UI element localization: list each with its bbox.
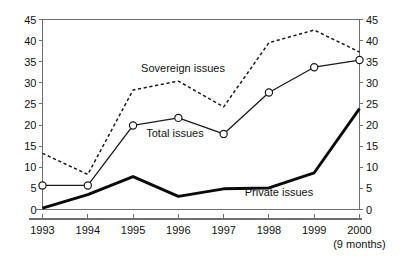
x-axis-note-label: (9 months) — [333, 238, 386, 250]
y-axis-right-tick-label: 5 — [366, 182, 372, 194]
y-axis-right-tick-label: 25 — [366, 98, 378, 110]
data-point-marker — [129, 122, 136, 129]
y-axis-left-tick-label: 10 — [24, 161, 36, 173]
y-axis-left-tick-label: 45 — [24, 14, 36, 26]
y-axis-left-tick-label: 25 — [24, 98, 36, 110]
data-point-marker — [265, 89, 272, 96]
y-axis-right-tick-label: 10 — [366, 161, 378, 173]
y-axis-right-tick-label: 35 — [366, 56, 378, 68]
x-axis-tick-label: 1996 — [166, 224, 190, 236]
x-axis-tick-label: 1997 — [211, 224, 235, 236]
data-point-marker — [39, 182, 46, 189]
line-chart-figure: 051015202530354045 051015202530354045 19… — [0, 0, 403, 257]
chart-canvas: 051015202530354045 051015202530354045 19… — [0, 0, 403, 257]
y-axis-right-tick-label: 15 — [366, 140, 378, 152]
x-axis-tick-label: 1995 — [121, 224, 145, 236]
series-label-sovereign-issues: Sovereign issues — [141, 62, 225, 74]
y-axis-right-tick-label: 45 — [366, 14, 378, 26]
y-axis-right-tick-label: 40 — [366, 35, 378, 47]
x-axis-tick-label: 1999 — [302, 224, 326, 236]
y-axis-right-tick-label: 0 — [366, 204, 372, 216]
series-label-private-issues: Private issues — [245, 186, 314, 198]
x-axis-tick-label: 1994 — [76, 224, 100, 236]
series-label-total-issues: Total issues — [146, 127, 204, 139]
data-point-marker — [175, 114, 182, 121]
y-axis-left-tick-label: 15 — [24, 140, 36, 152]
y-axis-left-tick-label: 35 — [24, 56, 36, 68]
data-point-marker — [220, 130, 227, 137]
data-point-marker — [311, 64, 318, 71]
y-axis-left-tick-label: 40 — [24, 35, 36, 47]
x-axis-tick-label: 2000 — [347, 224, 371, 236]
y-axis-left-tick-label: 20 — [24, 119, 36, 131]
x-axis-tick-label: 1998 — [257, 224, 281, 236]
data-point-marker — [356, 56, 363, 63]
y-axis-right-tick-label: 30 — [366, 77, 378, 89]
y-axis-left-tick-label: 30 — [24, 77, 36, 89]
y-axis-right-tick-label: 20 — [366, 119, 378, 131]
data-point-marker — [84, 182, 91, 189]
y-axis-left-tick-label: 5 — [30, 182, 36, 194]
x-axis-tick-label: 1993 — [30, 224, 54, 236]
